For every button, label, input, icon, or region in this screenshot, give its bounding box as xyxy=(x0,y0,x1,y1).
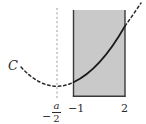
left-bound-tick-label: −1 xyxy=(68,103,84,114)
vertex-label-numerator: a xyxy=(52,101,60,112)
parabola-shaded-region-figure: C − a 2 −1 2 xyxy=(0,0,146,124)
vertex-label-denominator: 2 xyxy=(52,113,60,124)
vertex-label-minus-sign: − xyxy=(42,111,51,122)
curve-dashed-left-segment xyxy=(21,67,74,86)
curve-dashed-right-segment xyxy=(125,3,141,26)
right-bound-tick-label: 2 xyxy=(121,103,128,114)
vertex-label-fraction: a 2 xyxy=(52,101,60,124)
vertex-tick-label: − a 2 xyxy=(42,101,61,124)
curve-label-c: C xyxy=(8,59,18,72)
shaded-region-rect xyxy=(74,10,126,96)
